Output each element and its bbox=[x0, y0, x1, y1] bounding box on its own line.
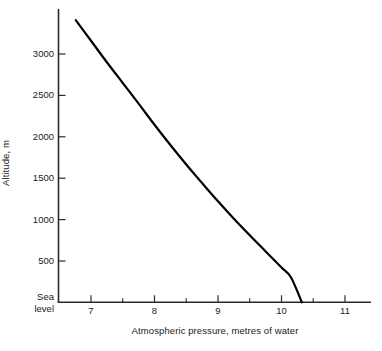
x-tick-label: 9 bbox=[203, 305, 233, 316]
x-tick-label: 8 bbox=[140, 305, 170, 316]
chart-figure: 3000 2500 2000 1500 1000 500 Sea level 7… bbox=[0, 0, 382, 351]
y-axis-title: Altitude, m bbox=[0, 118, 16, 208]
x-tick-label: 10 bbox=[267, 305, 297, 316]
x-tick-label-group: 7 8 9 10 11 bbox=[0, 0, 382, 351]
x-axis-title: Atmospheric pressure, metres of water bbox=[60, 325, 370, 336]
x-tick-label: 7 bbox=[76, 305, 106, 316]
x-tick-label: 11 bbox=[330, 305, 360, 316]
